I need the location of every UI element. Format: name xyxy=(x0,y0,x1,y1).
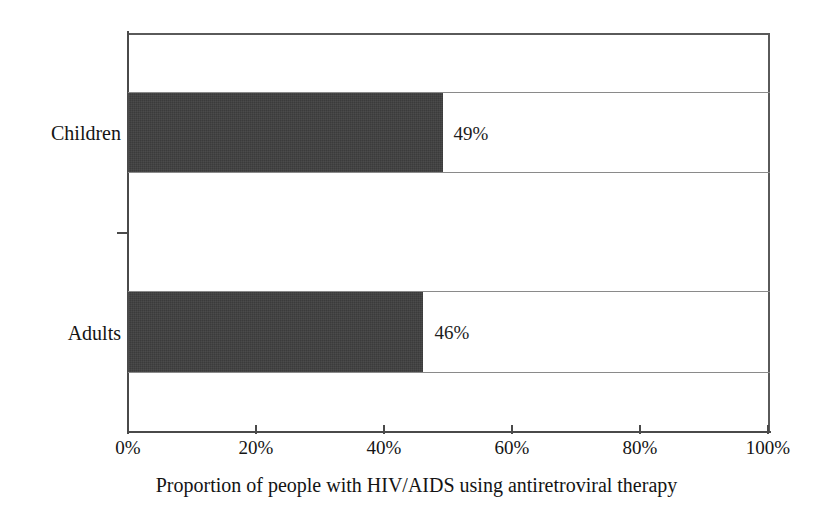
x-tick-label-100: 100% xyxy=(746,438,790,457)
gridline-adults-bottom xyxy=(128,372,770,373)
bar-chart-figure: 49% 46% Children Adults 0% 20% 40% 60% 8… xyxy=(0,0,833,525)
bar-children[interactable] xyxy=(129,93,443,172)
category-label-children: Children xyxy=(51,123,121,143)
x-axis-title: Proportion of people with HIV/AIDS using… xyxy=(0,474,833,496)
x-axis-line xyxy=(127,431,771,433)
x-tick-mark-40 xyxy=(383,425,385,434)
x-tick-label-40: 40% xyxy=(367,438,402,457)
x-tick-label-80: 80% xyxy=(623,438,658,457)
x-tick-label-20: 20% xyxy=(239,438,274,457)
x-tick-mark-0 xyxy=(127,425,129,434)
x-tick-mark-100 xyxy=(767,425,769,434)
x-tick-mark-20 xyxy=(255,425,257,434)
value-label-adults: 46% xyxy=(434,323,469,342)
y-axis-minor-tick xyxy=(117,232,129,234)
category-label-adults: Adults xyxy=(68,323,121,343)
x-tick-label-60: 60% xyxy=(495,438,530,457)
x-tick-label-0: 0% xyxy=(115,438,140,457)
value-label-children: 49% xyxy=(454,124,489,143)
bar-adults[interactable] xyxy=(129,292,423,372)
gridline-children-bottom xyxy=(128,172,770,173)
x-tick-mark-60 xyxy=(511,425,513,434)
x-tick-mark-80 xyxy=(639,425,641,434)
